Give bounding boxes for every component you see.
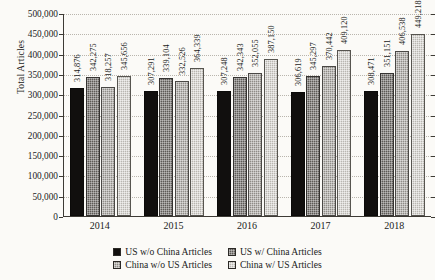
x-axis-tick-label: 2017 [284, 220, 358, 231]
legend-label: China w/o US Articles [125, 259, 212, 270]
bar-value-label: 332,526 [177, 47, 186, 75]
bar[interactable] [337, 50, 351, 216]
bar-wrapper: 307,291 [144, 14, 158, 216]
bar-groups: 314,876342,275318,257345,656307,291339,1… [64, 14, 431, 216]
bar[interactable] [101, 87, 115, 216]
y-axis-tick-mark-right [431, 14, 435, 15]
bar[interactable] [70, 88, 84, 216]
y-axis-tick-label: 100,000 [0, 171, 58, 181]
x-axis-tick-label: 2018 [357, 220, 431, 231]
bar[interactable] [86, 77, 100, 216]
bar[interactable] [291, 92, 305, 216]
bar-wrapper: 339,104 [159, 14, 173, 216]
bar-wrapper: 409,120 [337, 14, 351, 216]
bar-value-label: 306,619 [293, 58, 302, 86]
legend-swatch-icon [228, 248, 236, 256]
bar[interactable] [248, 73, 262, 216]
y-axis-tick-mark [59, 55, 64, 56]
legend-label: US w/o China Articles [125, 246, 212, 257]
y-axis-tick-mark-right [431, 136, 435, 137]
bar-wrapper: 332,526 [175, 14, 189, 216]
bar-value-label: 314,876 [73, 55, 82, 83]
y-axis-tick-mark-right [431, 156, 435, 157]
bar[interactable] [306, 76, 320, 216]
bar[interactable] [380, 73, 394, 216]
bar[interactable] [233, 77, 247, 216]
bar-wrapper: 318,257 [101, 14, 115, 216]
bar-wrapper: 351,151 [380, 14, 394, 216]
bar-wrapper: 345,297 [306, 14, 320, 216]
bar-wrapper: 406,538 [395, 14, 409, 216]
bar-group: 307,248342,343352,055387,150 [211, 14, 284, 216]
bar-group: 308,471351,151406,538449,218 [358, 14, 431, 216]
bar-value-label: 318,257 [104, 53, 113, 81]
x-axis-labels: 20142015201620172018 [63, 220, 431, 231]
y-axis-tick-label: 250,000 [0, 111, 58, 121]
bar[interactable] [175, 81, 189, 216]
bar-wrapper: 352,055 [248, 14, 262, 216]
x-axis-tick-label: 2014 [63, 220, 137, 231]
y-axis-tick-label: 400,000 [0, 50, 58, 60]
bar-wrapper: 308,471 [364, 14, 378, 216]
bar-value-label: 364,339 [193, 34, 202, 62]
bar-value-label: 307,291 [146, 58, 155, 86]
y-axis-tick-mark-right [431, 34, 435, 35]
bar[interactable] [322, 66, 336, 216]
y-axis-tick-label: 50,000 [0, 192, 58, 202]
legend: US w/o China Articles US w/ China Articl… [0, 246, 435, 270]
bar[interactable] [190, 68, 204, 216]
legend-item-china-wo-us: China w/o US Articles [113, 259, 212, 270]
bar[interactable] [264, 59, 278, 216]
bar-wrapper: 370,442 [322, 14, 336, 216]
legend-row-2: China w/o US Articles China w/ US Articl… [113, 259, 321, 270]
bar-group: 314,876342,275318,257345,656 [64, 14, 137, 216]
bar[interactable] [411, 34, 425, 216]
y-axis-tick-mark-right [431, 176, 435, 177]
bar[interactable] [217, 91, 231, 216]
bar-value-label: 352,055 [251, 39, 260, 67]
legend-label: China w/ US Articles [240, 259, 322, 270]
y-axis-tick-label: 150,000 [0, 151, 58, 161]
bar-chart: Total Articles 314,876342,275318,257345,… [0, 0, 435, 280]
bar-wrapper: 345,656 [117, 14, 131, 216]
bar[interactable] [117, 76, 131, 216]
bar[interactable] [364, 91, 378, 216]
bar-value-label: 387,150 [266, 25, 275, 53]
bar-group: 307,291339,104332,526364,339 [137, 14, 210, 216]
legend-item-china-w-us: China w/ US Articles [228, 259, 322, 270]
bar-group: 306,619345,297370,442409,120 [284, 14, 357, 216]
plot-area: 314,876342,275318,257345,656307,291339,1… [63, 14, 431, 217]
bar-value-label: 351,151 [382, 40, 391, 68]
x-axis-tick-label: 2016 [210, 220, 284, 231]
bar-wrapper: 307,248 [217, 14, 231, 216]
y-axis-tick-mark [59, 156, 64, 157]
y-axis-tick-mark [59, 116, 64, 117]
y-axis-tick-mark [59, 217, 64, 218]
y-axis-tick-mark-right [431, 95, 435, 96]
bar-wrapper: 342,275 [86, 14, 100, 216]
bar-wrapper: 342,343 [233, 14, 247, 216]
y-axis-tick-label: 200,000 [0, 131, 58, 141]
bar-value-label: 449,218 [413, 0, 422, 28]
bar-wrapper: 449,218 [411, 14, 425, 216]
bar-value-label: 339,104 [162, 45, 171, 73]
y-axis-tick-mark-right [431, 197, 435, 198]
legend-swatch-icon [113, 261, 121, 269]
y-axis-tick-mark-right [431, 217, 435, 218]
legend-item-us-w-china: US w/ China Articles [228, 246, 322, 257]
bar-value-label: 409,120 [340, 16, 349, 44]
bar[interactable] [395, 51, 409, 216]
legend-row-1: US w/o China Articles US w/ China Articl… [113, 246, 321, 257]
y-axis-tick-mark-right [431, 116, 435, 117]
y-axis-tick-mark [59, 34, 64, 35]
bar-wrapper: 387,150 [264, 14, 278, 216]
bar[interactable] [159, 78, 173, 216]
bar-value-label: 307,248 [220, 58, 229, 86]
bar[interactable] [144, 91, 158, 216]
y-axis-tick-label: 0 [0, 212, 58, 222]
bar-value-label: 406,538 [398, 17, 407, 45]
bar-value-label: 370,442 [324, 32, 333, 60]
legend-swatch-icon [113, 248, 121, 256]
x-axis-tick-label: 2015 [137, 220, 211, 231]
bar-value-label: 342,343 [235, 43, 244, 71]
